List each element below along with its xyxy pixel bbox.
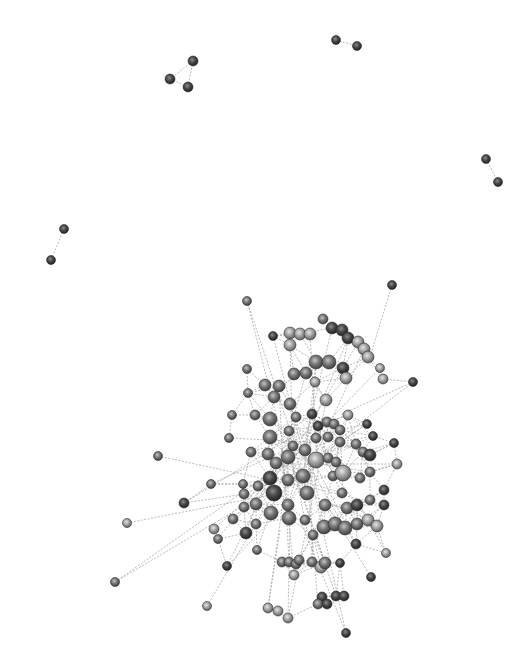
cluster-node[interactable] [323, 432, 333, 442]
cluster-node[interactable] [203, 602, 212, 611]
cluster-node[interactable] [268, 391, 280, 403]
cluster-node[interactable] [335, 425, 345, 435]
cluster-node[interactable] [266, 485, 282, 501]
cluster-node[interactable] [282, 511, 296, 525]
cluster-node[interactable] [228, 514, 238, 524]
cluster-node[interactable] [289, 570, 299, 580]
cluster-node[interactable] [240, 527, 252, 539]
cluster-node[interactable] [179, 498, 189, 508]
cluster-node[interactable] [390, 439, 399, 448]
cluster-node[interactable] [273, 380, 285, 392]
cluster-node[interactable] [263, 471, 277, 485]
pair-top-node[interactable] [332, 36, 341, 45]
cluster-node[interactable] [335, 437, 345, 447]
triad-top-left-node[interactable] [188, 56, 198, 66]
cluster-node[interactable] [300, 515, 310, 525]
cluster-node[interactable] [322, 355, 336, 369]
cluster-node[interactable] [367, 573, 376, 582]
cluster-node[interactable] [282, 499, 294, 511]
cluster-node[interactable] [283, 613, 293, 623]
cluster-node[interactable] [365, 495, 375, 505]
cluster-node[interactable] [263, 603, 273, 613]
cluster-node[interactable] [409, 378, 418, 387]
cluster-node[interactable] [207, 480, 216, 489]
cluster-node[interactable] [338, 521, 352, 535]
cluster-node[interactable] [239, 489, 249, 499]
pair-top-node[interactable] [353, 42, 362, 51]
cluster-node[interactable] [337, 488, 347, 498]
cluster-node[interactable] [311, 433, 321, 443]
cluster-node[interactable] [351, 499, 363, 511]
cluster-node[interactable] [223, 562, 232, 571]
cluster-node[interactable] [250, 498, 262, 510]
cluster-node[interactable] [363, 420, 372, 429]
cluster-node[interactable] [288, 441, 298, 451]
pair-right-node[interactable] [482, 155, 491, 164]
cluster-node[interactable] [340, 372, 352, 384]
cluster-node[interactable] [270, 457, 282, 469]
cluster-node[interactable] [308, 530, 318, 540]
cluster-node[interactable] [209, 524, 219, 534]
cluster-node[interactable] [319, 499, 331, 511]
cluster-node[interactable] [355, 473, 365, 483]
pair-left-node[interactable] [47, 256, 56, 265]
cluster-node[interactable] [214, 535, 223, 544]
cluster-node[interactable] [243, 365, 252, 374]
cluster-node[interactable] [123, 519, 132, 528]
cluster-node[interactable] [319, 557, 331, 569]
cluster-node[interactable] [253, 481, 263, 491]
cluster-node[interactable] [304, 328, 316, 340]
cluster-node[interactable] [284, 339, 296, 351]
cluster-node[interactable] [351, 439, 361, 449]
cluster-node[interactable] [371, 520, 383, 532]
pair-left-node[interactable] [60, 225, 69, 234]
cluster-node[interactable] [318, 314, 328, 324]
cluster-node[interactable] [320, 394, 332, 406]
cluster-node[interactable] [225, 434, 234, 443]
triad-top-left-node[interactable] [165, 74, 175, 84]
cluster-node[interactable] [243, 297, 252, 306]
cluster-node[interactable] [251, 519, 261, 529]
cluster-node[interactable] [300, 486, 314, 500]
cluster-node[interactable] [253, 546, 262, 555]
cluster-node[interactable] [392, 459, 402, 469]
cluster-node[interactable] [309, 355, 323, 369]
cluster-node[interactable] [111, 578, 120, 587]
cluster-node[interactable] [362, 351, 374, 363]
cluster-node[interactable] [246, 447, 256, 457]
cluster-node[interactable] [299, 444, 311, 456]
cluster-node[interactable] [239, 480, 248, 489]
cluster-node[interactable] [291, 412, 301, 422]
cluster-node[interactable] [369, 432, 378, 441]
cluster-node[interactable] [239, 502, 249, 512]
cluster-node[interactable] [282, 474, 294, 486]
cluster-node[interactable] [351, 518, 363, 530]
cluster-node[interactable] [335, 465, 351, 481]
cluster-node[interactable] [264, 506, 278, 520]
cluster-node[interactable] [154, 452, 163, 461]
cluster-node[interactable] [364, 449, 376, 461]
cluster-node[interactable] [382, 549, 391, 558]
cluster-node[interactable] [284, 398, 296, 410]
cluster-node[interactable] [313, 599, 323, 609]
cluster-node[interactable] [281, 450, 295, 464]
cluster-node[interactable] [313, 421, 323, 431]
cluster-node[interactable] [263, 430, 277, 444]
cluster-node[interactable] [307, 409, 317, 419]
cluster-node[interactable] [339, 591, 349, 601]
cluster-node[interactable] [284, 426, 294, 436]
cluster-node[interactable] [351, 539, 361, 549]
cluster-node[interactable] [250, 410, 260, 420]
cluster-node[interactable] [342, 629, 351, 638]
cluster-node[interactable] [322, 599, 332, 609]
cluster-node[interactable] [379, 500, 389, 510]
cluster-node[interactable] [296, 469, 310, 483]
cluster-node[interactable] [269, 332, 278, 341]
cluster-node[interactable] [244, 389, 253, 398]
pair-right-node[interactable] [494, 178, 503, 187]
cluster-node[interactable] [388, 281, 397, 290]
cluster-node[interactable] [288, 368, 300, 380]
cluster-node[interactable] [310, 377, 320, 387]
cluster-node[interactable] [379, 485, 389, 495]
cluster-node[interactable] [294, 555, 304, 565]
